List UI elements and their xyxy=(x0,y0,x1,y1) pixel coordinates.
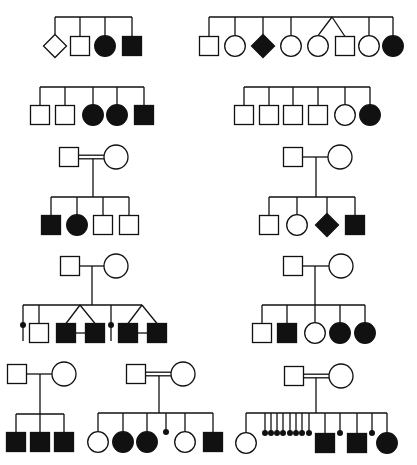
female-circle-icon xyxy=(383,36,404,57)
twin-line xyxy=(332,17,345,37)
male-square-icon xyxy=(56,106,75,125)
pedigree-9 xyxy=(7,362,77,452)
male-square-icon xyxy=(235,106,254,125)
father-square-icon xyxy=(284,148,303,167)
miscarriage-dot-icon xyxy=(20,322,26,328)
unknown-sex-diamond-icon xyxy=(252,35,275,58)
pedigree-5 xyxy=(42,145,139,235)
twin-line xyxy=(80,305,95,324)
male-square-icon xyxy=(348,434,367,453)
pedigree-11 xyxy=(236,364,398,453)
father-square-icon xyxy=(127,365,146,384)
female-circle-icon xyxy=(359,36,380,57)
mother-circle-icon xyxy=(329,254,353,278)
pedigree-3 xyxy=(31,87,154,125)
miscarriage-dot-icon xyxy=(337,430,343,436)
female-circle-icon xyxy=(377,433,398,454)
miscarriage-dot-icon xyxy=(108,322,114,328)
male-square-icon xyxy=(200,37,219,56)
mother-circle-icon xyxy=(104,145,128,169)
miscarriage-dot-icon xyxy=(280,430,286,436)
pedigree-figure xyxy=(0,0,417,465)
female-circle-icon xyxy=(175,432,196,453)
twin-line xyxy=(128,305,142,324)
miscarriage-dot-icon xyxy=(306,430,312,436)
female-circle-icon xyxy=(107,105,128,126)
pedigree-10 xyxy=(88,362,223,452)
female-circle-icon xyxy=(308,36,329,57)
male-square-icon xyxy=(135,106,154,125)
male-square-icon xyxy=(346,216,365,235)
miscarriage-dot-icon xyxy=(262,430,268,436)
pedigree-8 xyxy=(253,254,376,343)
female-circle-icon xyxy=(236,433,257,454)
miscarriage-dot-icon xyxy=(274,430,280,436)
miscarriage-dot-icon xyxy=(293,430,299,436)
female-circle-icon xyxy=(88,432,109,453)
male-square-icon xyxy=(316,434,335,453)
father-square-icon xyxy=(61,257,80,276)
female-circle-icon xyxy=(95,36,116,57)
male-square-icon xyxy=(120,216,139,235)
miscarriage-dot-icon xyxy=(163,429,169,435)
unknown-sex-diamond-icon xyxy=(44,35,67,58)
male-square-icon xyxy=(86,324,105,343)
female-circle-icon xyxy=(355,323,376,344)
male-square-icon xyxy=(31,433,50,452)
father-square-icon xyxy=(284,257,303,276)
male-square-icon xyxy=(148,324,167,343)
miscarriage-dot-icon xyxy=(299,430,305,436)
male-square-icon xyxy=(42,216,61,235)
male-square-icon xyxy=(260,106,279,125)
father-square-icon xyxy=(8,365,27,384)
female-circle-icon xyxy=(330,323,351,344)
female-circle-icon xyxy=(360,105,381,126)
mother-circle-icon xyxy=(171,362,195,386)
male-square-icon xyxy=(336,37,355,56)
female-circle-icon xyxy=(113,432,134,453)
male-square-icon xyxy=(31,106,50,125)
male-square-icon xyxy=(55,433,74,452)
miscarriage-dot-icon xyxy=(369,430,375,436)
pedigree-7 xyxy=(20,254,167,343)
male-square-icon xyxy=(57,324,76,343)
male-square-icon xyxy=(260,216,279,235)
female-circle-icon xyxy=(67,215,88,236)
female-circle-icon xyxy=(287,215,308,236)
male-square-icon xyxy=(123,37,142,56)
pedigree-6 xyxy=(260,145,365,237)
male-square-icon xyxy=(71,37,90,56)
female-circle-icon xyxy=(83,105,104,126)
male-square-icon xyxy=(204,433,223,452)
male-square-icon xyxy=(278,324,297,343)
miscarriage-dot-icon xyxy=(287,430,293,436)
twin-line xyxy=(66,305,80,324)
male-square-icon xyxy=(253,324,272,343)
unknown-sex-diamond-icon xyxy=(316,214,339,237)
male-square-icon xyxy=(7,433,26,452)
twin-line xyxy=(318,17,332,36)
mother-circle-icon xyxy=(329,364,353,388)
pedigree-4 xyxy=(235,87,381,125)
father-square-icon xyxy=(285,367,304,386)
pedigree-1 xyxy=(44,17,142,58)
miscarriage-dot-icon xyxy=(268,430,274,436)
female-circle-icon xyxy=(305,323,326,344)
male-square-icon xyxy=(284,106,303,125)
male-square-icon xyxy=(94,216,113,235)
pedigree-2 xyxy=(200,17,404,58)
father-square-icon xyxy=(60,148,79,167)
mother-circle-icon xyxy=(104,254,128,278)
male-square-icon xyxy=(309,106,328,125)
female-circle-icon xyxy=(335,105,356,126)
mother-circle-icon xyxy=(328,145,352,169)
male-square-icon xyxy=(30,324,49,343)
male-square-icon xyxy=(119,324,138,343)
female-circle-icon xyxy=(137,432,158,453)
female-circle-icon xyxy=(281,36,302,57)
female-circle-icon xyxy=(225,36,246,57)
twin-line xyxy=(142,305,157,324)
mother-circle-icon xyxy=(52,362,76,386)
